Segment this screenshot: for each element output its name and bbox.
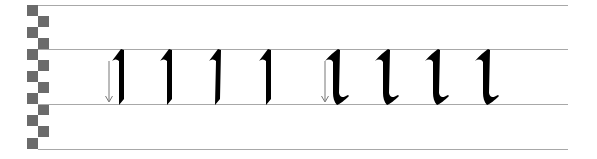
letter-l-straight-icon: [259, 49, 273, 105]
ladder-square: [38, 104, 49, 115]
ladder-square: [38, 38, 49, 49]
ladder-square: [38, 16, 49, 27]
letter-l-straight-icon: [160, 49, 174, 105]
ladder-square: [27, 27, 38, 38]
ladder-square: [27, 115, 38, 126]
ladder-square: [27, 71, 38, 82]
ladder-square: [38, 82, 49, 93]
ladder-square: [27, 138, 38, 149]
descender-line: [38, 149, 568, 150]
letter-l-hooked-icon: [375, 49, 399, 105]
ascender-line: [38, 5, 568, 6]
letter-l-straight-icon: [112, 49, 126, 105]
letter-l-straight-icon: [209, 49, 223, 105]
ladder-square: [38, 126, 49, 137]
practice-sheet: [0, 0, 597, 159]
ladder-square: [27, 93, 38, 104]
ladder-square: [27, 49, 38, 60]
ladder-square: [27, 5, 38, 16]
ladder-square: [38, 60, 49, 71]
letter-l-hooked-icon: [475, 49, 499, 105]
letter-l-hooked-icon: [325, 49, 349, 105]
letter-l-hooked-icon: [425, 49, 449, 105]
